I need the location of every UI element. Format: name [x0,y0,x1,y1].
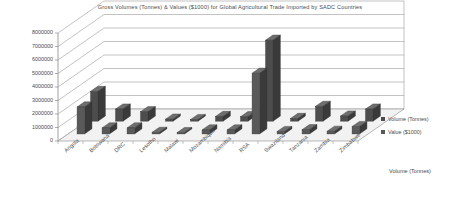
chart-3d-bar: Gross Volumes (Tonnes) & Values ($1000) … [0,0,460,223]
bar-rsa-value [252,68,267,134]
legend-item-volume[interactable]: Volume (Tonnes) [381,112,459,125]
y-axis-tick-label: 3000000 [9,97,53,103]
legend-swatch-value-icon [381,130,385,134]
y-axis-tick-label: 1000000 [9,124,53,130]
depth-axis-title: Volume (Tonnes) [389,168,431,174]
chart-legend: Volume (Tonnes) Value ($1000) [381,112,459,138]
y-axis-tick-label: 4000000 [9,83,53,89]
legend-label-value: Value ($1000) [388,129,421,135]
legend-label-volume: Volume (Tonnes) [388,116,428,122]
y-axis-tick-label: 8000000 [9,29,53,35]
y-axis-tick-label: 0 [9,137,53,143]
y-axis-tick-label: 2000000 [9,110,53,116]
bar-rsa-volume [266,35,281,121]
legend-swatch-volume-icon [381,117,385,121]
bar-angola-value [77,102,92,134]
y-axis-tick-label: 7000000 [9,43,53,49]
bar-angola-volume [91,86,106,121]
y-axis-tick-label: 6000000 [9,56,53,62]
legend-item-value[interactable]: Value ($1000) [381,125,459,138]
y-axis-tick-label: 5000000 [9,70,53,76]
